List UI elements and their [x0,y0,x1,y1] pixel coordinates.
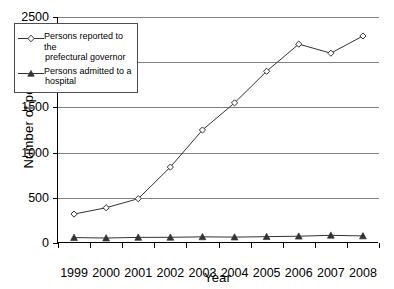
y-tick-label: 0 [42,236,49,250]
x-tick-label: 2007 [317,266,345,280]
x-tick-label: 1999 [60,266,88,280]
x-tick [379,243,380,248]
data-point-open-diamond [328,50,334,56]
series-line [74,235,363,238]
x-tick-label: 2008 [349,266,377,280]
x-tick [154,243,155,248]
legend-label-admitted: Persons admitted to a hospital [44,66,132,87]
y-tick-label: 1500 [21,100,49,114]
legend-item-admitted: Persons admitted to a hospital [18,66,133,87]
x-tick [186,243,187,248]
x-tick [122,243,123,248]
x-tick-label: 2006 [285,266,313,280]
data-point-open-diamond [103,205,109,211]
x-tick-label: 2004 [221,266,249,280]
legend-item-reported: Persons reported to the prefectural gove… [18,31,133,63]
x-tick [58,243,59,248]
legend: Persons reported to the prefectural gove… [14,23,138,93]
x-tick [347,243,348,248]
x-tick-label: 2003 [189,266,217,280]
legend-label-reported: Persons reported to the prefectural gove… [44,31,133,63]
data-point-open-diamond [71,211,77,217]
x-tick [283,243,284,248]
y-tick-label: 2500 [21,10,49,24]
x-tick-label: 2001 [124,266,152,280]
y-tick-label: 500 [28,191,49,205]
y-tick-label: 1000 [21,146,49,160]
x-tick [90,243,91,248]
x-tick [219,243,220,248]
x-tick [251,243,252,248]
x-tick [315,243,316,248]
filled-triangle-marker-icon [18,68,44,79]
open-diamond-marker-icon [18,33,44,44]
line-chart: Number of persons Year 05001000150020002… [0,0,394,289]
x-tick-label: 2000 [92,266,120,280]
x-tick-label: 2002 [156,266,184,280]
data-point-open-diamond [360,33,366,39]
x-tick-label: 2005 [253,266,281,280]
